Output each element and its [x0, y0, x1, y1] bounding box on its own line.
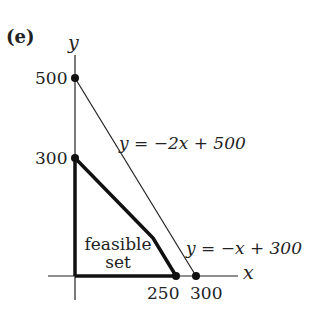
point-x-250 — [172, 272, 180, 280]
x-axis-label: x — [243, 263, 254, 282]
x-tick-300: 300 — [190, 285, 222, 302]
y-tick-300: 300 — [35, 150, 67, 167]
y-tick-500: 500 — [35, 70, 67, 87]
feasible-set-diagram: (e) y x 500 300 250 300 y = −2x + 500 y … — [0, 0, 329, 314]
point-x-300 — [192, 272, 200, 280]
point-y-500 — [71, 74, 79, 82]
point-y-300 — [71, 154, 79, 162]
feasible-set-label-line2: set — [80, 254, 156, 271]
panel-label: (e) — [6, 28, 35, 46]
equation-label-line2: y = −x + 300 — [186, 240, 302, 257]
y-axis-label: y — [68, 33, 79, 52]
x-tick-250: 250 — [147, 285, 179, 302]
feasible-set-label-line1: feasible — [80, 236, 156, 253]
equation-label-line1: y = −2x + 500 — [119, 135, 246, 152]
